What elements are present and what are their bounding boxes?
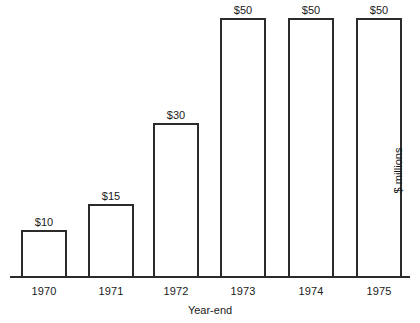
bar-value-label-1970: $10 [11, 216, 77, 228]
x-tick-label-1975: 1975 [344, 285, 414, 297]
plot-area: $10 $15 $30 $50 $50 $50 1970 1971 1972 1… [0, 0, 420, 323]
bar-value-label-1973: $50 [210, 4, 276, 16]
bar-value-label-1975: $50 [346, 4, 412, 16]
bar-1970[interactable] [21, 230, 67, 277]
bar-1972[interactable] [153, 123, 199, 277]
bar-1974[interactable] [288, 18, 334, 277]
bar-value-label-1974: $50 [278, 4, 344, 16]
x-tick-label-1973: 1973 [208, 285, 278, 297]
x-tick-label-1971: 1971 [76, 285, 146, 297]
x-axis-baseline [10, 276, 410, 278]
bar-1973[interactable] [220, 18, 266, 277]
x-tick-label-1974: 1974 [276, 285, 346, 297]
bar-1971[interactable] [88, 204, 134, 277]
x-tick-label-1972: 1972 [141, 285, 211, 297]
x-tick-label-1970: 1970 [9, 285, 79, 297]
bar-chart: $10 $15 $30 $50 $50 $50 1970 1971 1972 1… [0, 0, 420, 323]
bar-value-label-1972: $30 [143, 109, 209, 121]
x-axis-title: Year-end [0, 304, 420, 317]
bar-value-label-1971: $15 [78, 190, 144, 202]
y-axis-title: $ millions [392, 116, 405, 226]
